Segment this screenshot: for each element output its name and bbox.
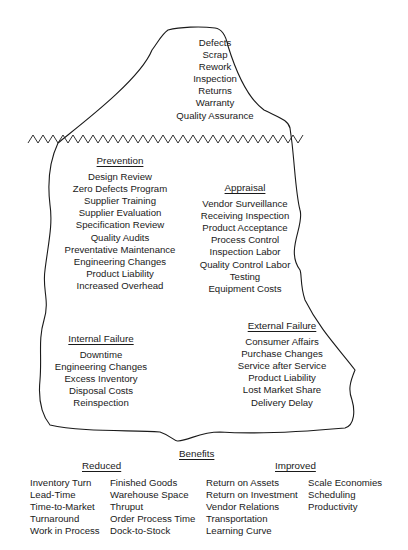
prevention-item: Engineering Changes — [50, 256, 190, 268]
reduced-item: Finished Goods — [110, 477, 195, 489]
improved-column-1: Return on Assets Return on Investment Ve… — [206, 477, 298, 537]
reduced-item: Warehouse Space — [110, 489, 195, 501]
appraisal-item: Receiving Inspection — [190, 210, 300, 222]
internal-failure-heading: Internal Failure — [68, 333, 133, 345]
prevention-item: Quality Audits — [50, 232, 190, 244]
reduced-column-1: Inventory Turn Lead-Time Time-to-Market … — [30, 477, 100, 537]
prevention-item: Specification Review — [50, 219, 190, 231]
external-failure-item: Service after Service — [222, 360, 342, 372]
prevention-item: Zero Defects Program — [50, 183, 190, 195]
appraisal-item: Vendor Surveillance — [190, 198, 300, 210]
reduced-item: Lead-Time — [30, 489, 100, 501]
reduced-item: Order Process Time — [110, 513, 195, 525]
internal-failure-item: Reinspection — [46, 397, 156, 409]
improved-item: Return on Assets — [206, 477, 298, 489]
external-failure-item: Delivery Delay — [222, 397, 342, 409]
prevention-heading: Prevention — [97, 155, 144, 167]
prevention-item: Supplier Training — [50, 195, 190, 207]
tip-costs-list: Defects Scrap Rework Inspection Returns … — [150, 37, 280, 122]
appraisal-heading: Appraisal — [225, 182, 266, 194]
reduced-item: Thruput — [110, 501, 195, 513]
external-failure-item: Purchase Changes — [222, 348, 342, 360]
external-failure-section: External Failure Consumer Affairs Purcha… — [222, 320, 342, 409]
improved-item: Scheduling — [308, 489, 382, 501]
tip-item: Scrap — [150, 49, 280, 61]
appraisal-item: Testing — [190, 271, 300, 283]
appraisal-item: Process Control — [190, 234, 300, 246]
improved-item: Vendor Relations — [206, 501, 298, 513]
appraisal-item: Equipment Costs — [190, 283, 300, 295]
prevention-item: Increased Overhead — [50, 280, 190, 292]
tip-item: Quality Assurance — [150, 110, 280, 122]
benefits-heading: Benefits — [179, 448, 214, 459]
reduced-heading: Reduced — [82, 460, 121, 471]
improved-item: Learning Curve — [206, 525, 298, 537]
internal-failure-section: Internal Failure Downtime Engineering Ch… — [46, 333, 156, 410]
external-failure-item: Product Liability — [222, 372, 342, 384]
reduced-item: Turnaround — [30, 513, 100, 525]
internal-failure-item: Excess Inventory — [46, 373, 156, 385]
appraisal-section: Appraisal Vendor Surveillance Receiving … — [190, 182, 300, 295]
tip-item: Defects — [150, 37, 280, 49]
internal-failure-item: Engineering Changes — [46, 361, 156, 373]
appraisal-item: Quality Control Labor — [190, 259, 300, 271]
tip-item: Warranty — [150, 97, 280, 109]
improved-heading: Improved — [275, 460, 316, 471]
reduced-item: Work in Process — [30, 525, 100, 537]
tip-item: Rework — [150, 61, 280, 73]
reduced-item: Time-to-Market — [30, 501, 100, 513]
improved-item: Return on Investment — [206, 489, 298, 501]
appraisal-item: Inspection Labor — [190, 246, 300, 258]
prevention-section: Prevention Design Review Zero Defects Pr… — [50, 155, 190, 292]
prevention-item: Product Liability — [50, 268, 190, 280]
reduced-item: Inventory Turn — [30, 477, 100, 489]
improved-item: Productivity — [308, 501, 382, 513]
water-line-zigzag — [28, 135, 303, 143]
improved-item: Transportation — [206, 513, 298, 525]
prevention-item: Supplier Evaluation — [50, 207, 190, 219]
external-failure-item: Consumer Affairs — [222, 336, 342, 348]
tip-item: Inspection — [150, 73, 280, 85]
external-failure-item: Lost Market Share — [222, 384, 342, 396]
improved-item: Scale Economies — [308, 477, 382, 489]
internal-failure-item: Disposal Costs — [46, 385, 156, 397]
internal-failure-item: Downtime — [46, 349, 156, 361]
reduced-column-2: Finished Goods Warehouse Space Thruput O… — [110, 477, 195, 537]
prevention-item: Preventative Maintenance — [50, 244, 190, 256]
external-failure-heading: External Failure — [248, 320, 317, 332]
tip-item: Returns — [150, 85, 280, 97]
appraisal-item: Product Acceptance — [190, 222, 300, 234]
prevention-item: Design Review — [50, 171, 190, 183]
improved-column-2: Scale Economies Scheduling Productivity — [308, 477, 382, 513]
reduced-item: Dock-to-Stock — [110, 525, 195, 537]
